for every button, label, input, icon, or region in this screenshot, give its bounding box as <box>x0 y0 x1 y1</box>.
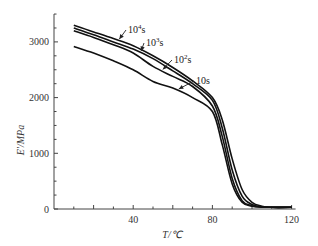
y-axis-title: E'/MPa <box>15 125 26 156</box>
axes: 01000200030004080120 <box>29 14 299 225</box>
x-axis-title: T/℃ <box>162 229 183 240</box>
curves <box>74 25 292 207</box>
y-tick-label: 1000 <box>29 148 49 159</box>
curve-10-s <box>74 46 292 207</box>
y-tick-label: 0 <box>44 204 49 215</box>
series-label: 104s <box>128 23 146 35</box>
x-tick-label: 40 <box>128 214 138 225</box>
modulus-temperature-chart: 01000200030004080120 104s103s102s10s E'/… <box>0 0 318 246</box>
series-annotations: 104s103s102s10s <box>119 23 210 89</box>
annotation-arrowhead-icon <box>119 34 123 39</box>
x-tick-label: 80 <box>207 214 217 225</box>
y-tick-label: 3000 <box>29 36 49 47</box>
y-tick-label: 2000 <box>29 92 49 103</box>
curve-10-4-s <box>74 25 292 207</box>
series-label: 102s <box>174 53 192 65</box>
series-label: 103s <box>146 36 164 48</box>
series-label: 10s <box>196 75 210 86</box>
x-tick-label: 120 <box>284 214 299 225</box>
